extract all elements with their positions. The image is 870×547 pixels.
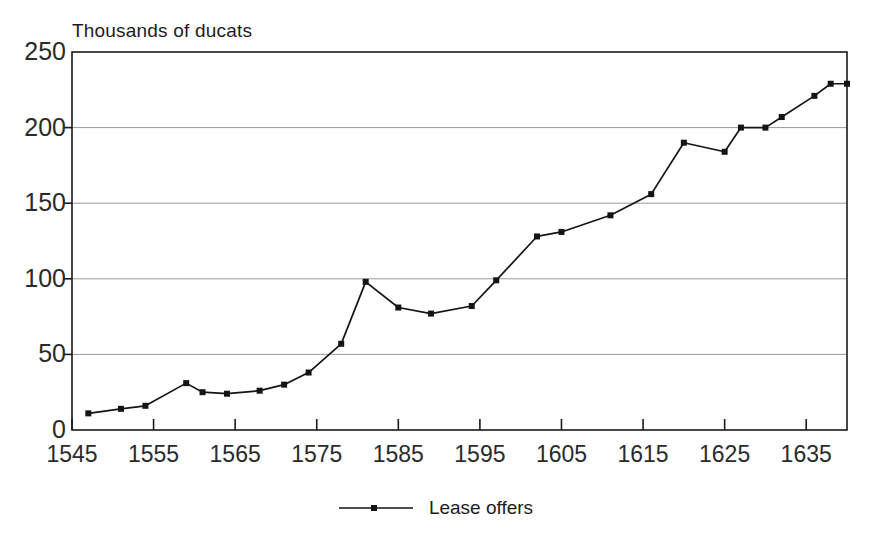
- x-axis-tick-label: 1625: [699, 443, 750, 466]
- x-axis-tick-label: 1605: [536, 443, 587, 466]
- data-point-marker: [338, 341, 344, 347]
- data-point-marker: [844, 81, 850, 87]
- legend-label-lease-offers: Lease offers: [429, 497, 533, 519]
- series-line-lease-offers: [88, 84, 847, 414]
- data-point-marker: [493, 277, 499, 283]
- x-axis-tick-label: 1635: [781, 443, 832, 466]
- data-point-marker: [363, 279, 369, 285]
- x-axis-tick-label: 1585: [373, 443, 424, 466]
- x-axis-tick-label: 1565: [210, 443, 261, 466]
- data-point-marker: [306, 370, 312, 376]
- data-point-marker: [183, 380, 189, 386]
- data-point-marker: [722, 149, 728, 155]
- y-axis-tick-label: 200: [4, 115, 66, 140]
- data-point-marker: [648, 191, 654, 197]
- data-point-marker: [200, 389, 206, 395]
- data-point-marker: [85, 410, 91, 416]
- y-axis-tick-label: 150: [4, 190, 66, 215]
- y-axis-title: Thousands of ducats: [72, 20, 252, 42]
- data-point-marker: [118, 406, 124, 412]
- y-axis-tick-label: 0: [4, 417, 66, 442]
- gridlines: [72, 128, 847, 355]
- data-point-marker: [281, 382, 287, 388]
- y-axis-tick-label: 250: [4, 39, 66, 64]
- chart-container: Thousands of ducats 250200150100500 1545…: [0, 0, 870, 547]
- x-axis-tick-label: 1545: [46, 443, 97, 466]
- data-point-marker: [811, 93, 817, 99]
- x-axis-tick-label: 1615: [617, 443, 668, 466]
- data-point-marker: [142, 403, 148, 409]
- chart-legend: Lease offers: [0, 497, 870, 519]
- x-axis-tick-label: 1575: [291, 443, 342, 466]
- data-point-marker: [828, 81, 834, 87]
- data-point-marker: [779, 114, 785, 120]
- data-point-marker: [224, 391, 230, 397]
- x-axis-tick-label: 1555: [128, 443, 179, 466]
- data-point-marker: [534, 233, 540, 239]
- data-point-marker: [558, 229, 564, 235]
- data-point-marker: [681, 140, 687, 146]
- y-axis-tick-label: 100: [4, 266, 66, 291]
- data-point-marker: [469, 303, 475, 309]
- data-point-marker: [257, 388, 263, 394]
- plot-frame: [72, 52, 847, 430]
- y-axis-tick-label: 50: [4, 341, 66, 366]
- data-point-marker: [428, 311, 434, 317]
- data-point-marker: [607, 212, 613, 218]
- x-axis-tick-label: 1595: [454, 443, 505, 466]
- data-point-marker: [762, 125, 768, 131]
- data-point-marker: [738, 125, 744, 131]
- legend-symbol-icon: [337, 500, 415, 516]
- data-point-marker: [395, 305, 401, 311]
- series-markers-lease-offers: [85, 81, 850, 417]
